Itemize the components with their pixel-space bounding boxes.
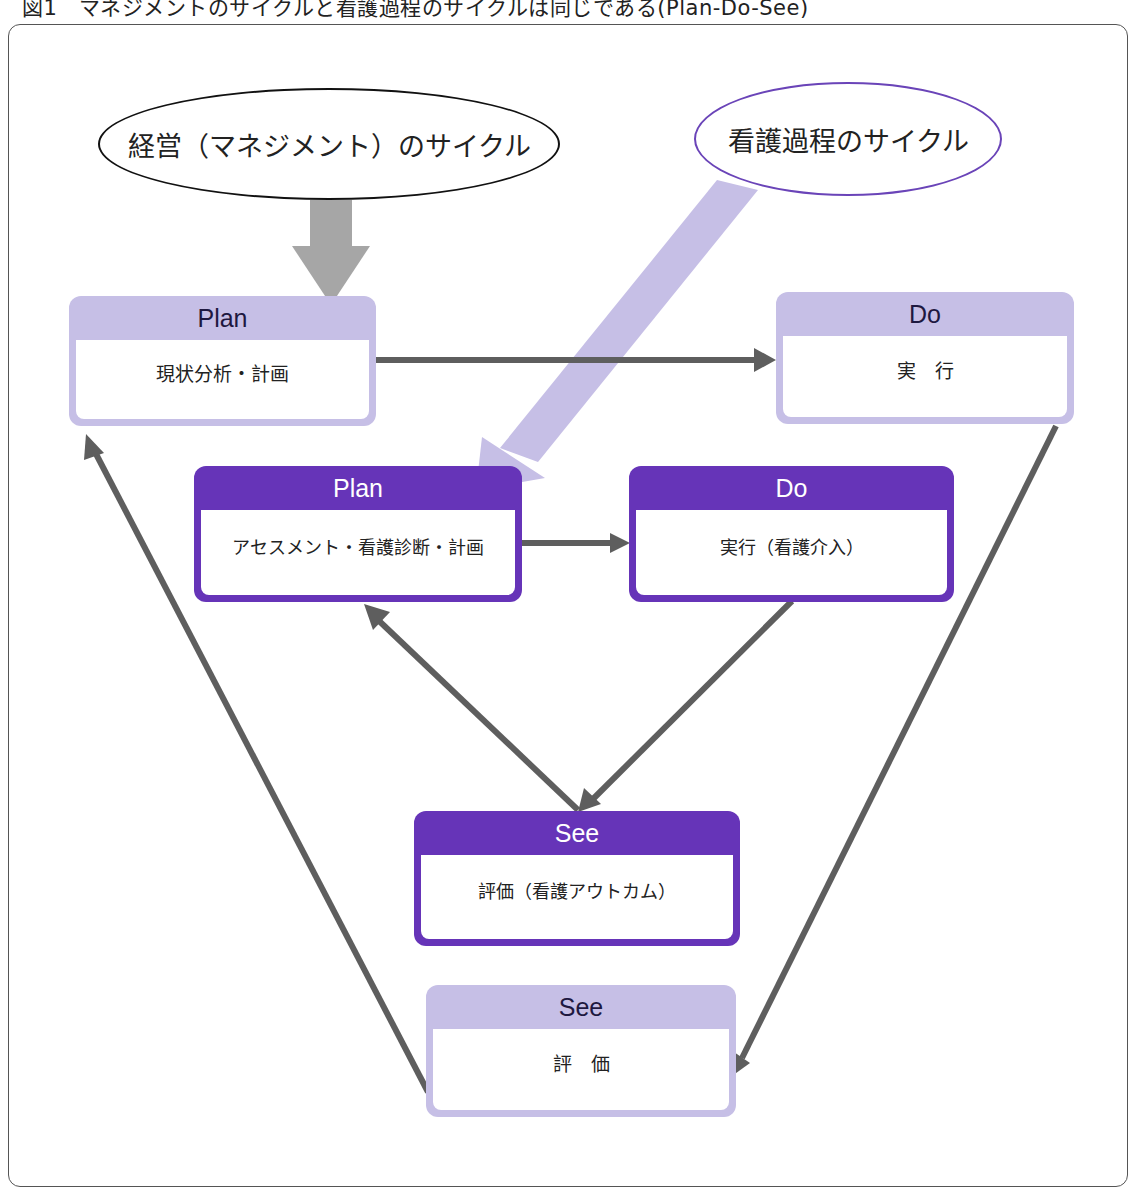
management-entry-arrow — [292, 200, 370, 305]
nursing-plan-box: Plan アセスメント・看護診断・計画 — [194, 466, 522, 602]
nursing-see-body: 評価（看護アウトカム） — [421, 855, 733, 939]
management-see-body: 評 価 — [433, 1029, 729, 1110]
management-plan-header: Plan — [69, 296, 376, 340]
nursing-process-cycle-ellipse: 看護過程のサイクル — [694, 82, 1002, 196]
management-do-header: Do — [776, 292, 1074, 336]
nursing-do-header: Do — [629, 466, 954, 510]
management-cycle-ellipse: 経営（マネジメント）のサイクル — [98, 88, 560, 200]
arrow-nurse-see-to-plan — [364, 604, 578, 810]
nursing-plan-body: アセスメント・看護診断・計画 — [201, 510, 515, 595]
management-cycle-label: 経営（マネジメント）のサイクル — [128, 125, 531, 164]
management-plan-box: Plan 現状分析・計画 — [69, 296, 376, 426]
nursing-see-box: See 評価（看護アウトカム） — [414, 811, 740, 946]
management-plan-body: 現状分析・計画 — [76, 340, 369, 419]
management-do-box: Do 実 行 — [776, 292, 1074, 424]
management-see-box: See 評 価 — [426, 985, 736, 1117]
nursing-plan-header: Plan — [194, 466, 522, 510]
nursing-entry-arrow — [476, 180, 758, 490]
arrow-nurse-plan-to-do — [522, 533, 630, 553]
nursing-process-cycle-label: 看護過程のサイクル — [728, 120, 969, 159]
nursing-do-box: Do 実行（看護介入） — [629, 466, 954, 602]
nursing-do-body: 実行（看護介入） — [636, 510, 947, 595]
nursing-see-header: See — [414, 811, 740, 855]
arrow-nurse-do-to-see — [578, 601, 792, 812]
management-do-body: 実 行 — [783, 336, 1067, 417]
management-see-header: See — [426, 985, 736, 1029]
